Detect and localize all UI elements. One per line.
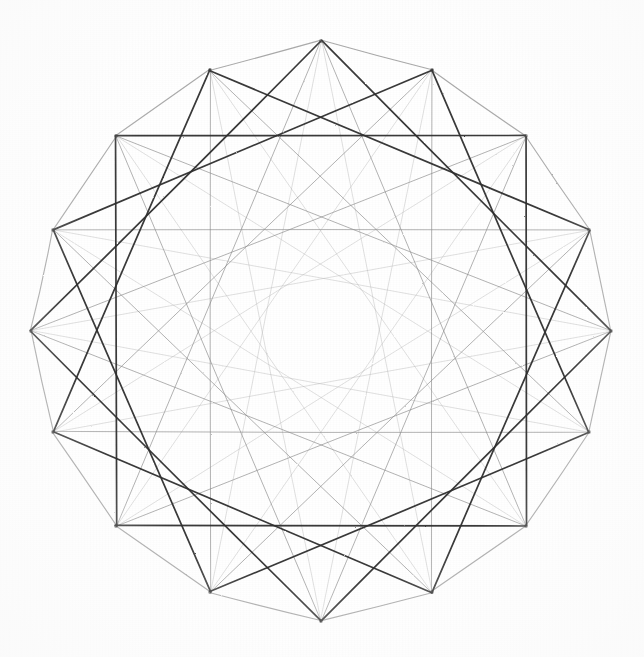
hexadecagon-chord-figure bbox=[0, 0, 644, 657]
vertex-node-V11 bbox=[51, 430, 55, 434]
vertex-node-V6 bbox=[524, 524, 528, 528]
chord-step-4-squares-V10-V14 bbox=[116, 136, 117, 526]
vertex-node-V0 bbox=[319, 39, 323, 43]
vertex-node-V8 bbox=[319, 619, 323, 623]
vertex-node-V5 bbox=[587, 430, 591, 434]
vertex-node-V12 bbox=[29, 329, 33, 333]
vertex-node-V7 bbox=[430, 590, 434, 594]
drawing-canvas bbox=[0, 0, 644, 657]
chord-step-4-squares-V2-V6 bbox=[526, 137, 527, 526]
vertex-node-V15 bbox=[208, 68, 212, 72]
vertex-node-V1 bbox=[430, 68, 434, 72]
vertex-node-V2 bbox=[524, 134, 528, 138]
vertex-node-V14 bbox=[114, 134, 118, 138]
chord-step-4-squares-V6-V10 bbox=[115, 525, 526, 526]
vertex-node-V13 bbox=[51, 228, 55, 232]
vertex-node-V10 bbox=[114, 524, 118, 528]
chord-step-6-star-V9-V15 bbox=[210, 70, 211, 592]
vertex-node-V4 bbox=[609, 329, 613, 333]
vertex-node-V3 bbox=[587, 228, 591, 232]
vertex-node-V9 bbox=[208, 590, 212, 594]
